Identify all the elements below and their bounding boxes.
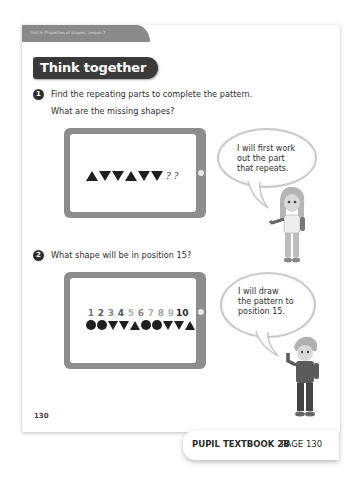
speech-1-line-3: that repeats. [237,164,289,174]
tablet-screen: 1 2 3 4 5 6 7 8 9 10 [70,278,196,363]
question-2-number: 2 [33,250,44,261]
triangle-down-shape [138,171,150,181]
position-label: 1 [86,308,96,318]
triangle-down-shape [99,171,111,181]
unit-header-text: Unit 9: Properties of shapes, Lesson 7 [30,30,105,35]
tablet-home-button [198,309,204,315]
question-2-line-1: What shape will be in position 15? [51,250,191,260]
triangle-down-shape [174,321,184,330]
girl-character-illustration [268,185,312,265]
triangle-up-shape [125,171,137,181]
question-1-number: 1 [33,89,44,100]
triangle-down-shape [151,171,163,181]
position-label: 3 [106,308,116,318]
question-1-line-2: What are the missing shapes? [51,106,174,116]
triangle-down-shape [163,321,173,330]
section-title: Think together [40,57,146,79]
speech-1-line-1: I will first work [237,144,295,154]
speech-2-line-1: I will draw [238,287,278,297]
unit-header-band: Unit 9: Properties of shapes, Lesson 7 [22,25,150,42]
tablet-pattern-1: ? ? [64,128,206,218]
speech-bubble-1: I will first work out the part that repe… [217,128,317,188]
missing-shape-mark: ? [166,171,171,181]
missing-shape-mark: ? [174,171,179,181]
triangle-down-shape [112,171,124,181]
triangle-down-shape [119,321,129,330]
shape-pattern-1: ? ? [86,171,179,181]
book-page: PAGE 130 [281,439,322,449]
book-title: PUPIL TEXTBOOK 2B [192,439,290,449]
speech-2-line-2: the pattern to [238,297,294,307]
triangle-down-shape [108,321,118,330]
circle-shape [86,320,96,330]
question-1-line-1: Find the repeating parts to complete the… [51,89,252,99]
shape-pattern-2 [85,320,195,330]
position-label: 9 [166,308,176,318]
tablet-home-button [198,170,204,176]
speech-2-line-3: position 15. [238,307,285,317]
position-label: 7 [146,308,156,318]
tablet-screen: ? ? [70,134,196,212]
boy-character-illustration [282,335,326,421]
position-label: 5 [126,308,136,318]
position-numbers: 1 2 3 4 5 6 7 8 9 10 [86,308,188,318]
page-reference-label: PUPIL TEXTBOOK 2B PAGE 130 [183,430,339,460]
think-together-badge: Think together [33,57,158,79]
circle-shape [141,320,151,330]
speech-bubble-2: I will draw the pattern to position 15. [220,272,316,338]
triangle-up-shape [86,171,98,181]
triangle-up-shape [130,321,140,330]
tablet-pattern-2: 1 2 3 4 5 6 7 8 9 10 [64,272,206,369]
circle-shape [152,320,162,330]
page-number: 130 [34,412,49,420]
textbook-page: Unit 9: Properties of shapes, Lesson 7 T… [22,25,340,432]
position-label: 8 [156,308,166,318]
position-label: 6 [136,308,146,318]
position-label: 10 [176,308,188,318]
speech-bubble-2-tail [252,330,282,358]
position-label: 2 [96,308,106,318]
circle-shape [97,320,107,330]
speech-1-line-2: out the part [237,154,285,164]
position-label: 4 [116,308,126,318]
triangle-up-shape [185,321,195,330]
